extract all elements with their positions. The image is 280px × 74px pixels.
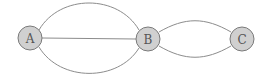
edge-a-b-upper — [39, 3, 139, 30]
node-b: B — [136, 27, 160, 51]
graph-canvas: A B C — [0, 0, 280, 74]
node-c: C — [230, 27, 254, 51]
graph-diagram: A B C — [0, 0, 280, 74]
edge-b-c-upper — [159, 21, 231, 32]
node-b-label: B — [144, 33, 153, 47]
edge-a-b-straight — [42, 38, 136, 39]
node-c-label: C — [237, 33, 246, 47]
edge-b-c-lower — [159, 46, 231, 57]
node-a-label: A — [25, 32, 35, 46]
node-a: A — [18, 26, 42, 50]
edge-a-b-lower — [39, 47, 139, 73]
